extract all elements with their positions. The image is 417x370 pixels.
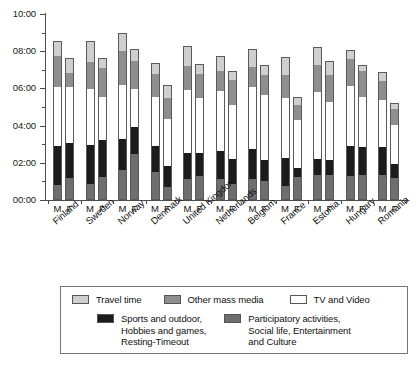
bar-segment-participatory xyxy=(195,176,204,200)
legend-swatch-participatory-activities xyxy=(224,314,241,323)
legend-item-sports-hobbies-resting: Sports and outdoor, Hobbies and games, R… xyxy=(97,313,206,348)
bar-segment-tv xyxy=(151,97,160,145)
bar-segment-other-mass-media xyxy=(358,71,367,98)
bar-segment-other-mass-media xyxy=(390,109,399,125)
x-axis-group-tick xyxy=(341,200,342,204)
bar-segment-travel xyxy=(98,58,107,68)
bar-segment-sports xyxy=(86,145,95,184)
x-axis-group-tick xyxy=(308,200,309,204)
bar-segment-other-mass-media xyxy=(86,62,95,89)
bar-segment-travel xyxy=(293,97,302,104)
bar-segment-tv xyxy=(65,87,74,143)
bar-segment-travel xyxy=(118,33,127,51)
bar-segment-other-mass-media xyxy=(151,74,160,97)
legend-label-travel-time: Travel time xyxy=(96,294,142,306)
bar-romania-m xyxy=(378,72,387,200)
bar-segment-sports xyxy=(293,168,302,177)
bar-segment-tv xyxy=(118,85,127,139)
bar-segment-participatory xyxy=(86,184,95,200)
bar-segment-participatory xyxy=(151,172,160,200)
bar-segment-other-mass-media xyxy=(228,80,237,105)
bar-segment-tv xyxy=(390,125,399,164)
bar-france-m xyxy=(281,57,290,200)
bar-estonia-f xyxy=(325,61,334,200)
legend-item-participatory-activities: Participatory activities, Social life, E… xyxy=(224,313,350,348)
x-axis-group-tick xyxy=(48,200,49,204)
bar-segment-tv xyxy=(293,120,302,168)
bar-segment-tv xyxy=(325,102,334,160)
x-axis-group-tick xyxy=(178,200,179,204)
legend-swatch-tv-and-video xyxy=(290,295,307,304)
bar-segment-sports xyxy=(248,149,257,179)
bar-segment-sports xyxy=(65,143,74,177)
bar-segment-tv xyxy=(248,87,257,149)
bar-segment-other-mass-media xyxy=(325,75,334,102)
bar-segment-sports xyxy=(53,146,62,185)
bar-segment-sports xyxy=(183,153,192,179)
bar-segment-other-mass-media xyxy=(346,59,355,86)
legend-swatch-other-mass-media xyxy=(164,295,181,304)
bar-segment-participatory xyxy=(183,179,192,200)
bar-segment-tv xyxy=(98,97,107,140)
bar-segment-other-mass-media xyxy=(183,66,192,90)
bar-segment-participatory xyxy=(53,185,62,200)
bar-segment-tv xyxy=(378,100,387,148)
bar-segment-sports xyxy=(346,146,355,176)
bar-segment-participatory xyxy=(281,186,290,200)
y-tick-major xyxy=(40,200,46,201)
bar-segment-travel xyxy=(325,61,334,75)
bar-denmark-f xyxy=(163,85,172,200)
bar-segment-sports xyxy=(195,153,204,176)
bar-segment-tv xyxy=(346,86,355,146)
bar-estonia-m xyxy=(313,47,322,200)
bar-segment-sports xyxy=(390,164,399,179)
bar-segment-sports xyxy=(378,147,387,175)
bar-segment-tv xyxy=(163,119,172,166)
bar-segment-participatory xyxy=(313,175,322,200)
bar-segment-travel xyxy=(248,49,257,67)
bar-segment-travel xyxy=(183,46,192,66)
y-axis-tick-label: 08:00 xyxy=(0,46,36,56)
bar-finland-m xyxy=(53,41,62,200)
bar-segment-tv xyxy=(281,98,290,158)
bar-segment-tv xyxy=(86,89,95,144)
bar-segment-participatory xyxy=(118,170,127,200)
bar-sweden-f xyxy=(98,58,107,200)
bar-segment-sports xyxy=(151,146,160,172)
legend-label-participatory-activities: Participatory activities, Social life, E… xyxy=(248,313,350,348)
bar-segment-tv xyxy=(53,87,62,146)
bar-segment-travel xyxy=(86,41,95,62)
bar-norway-f xyxy=(130,49,139,200)
bar-segment-other-mass-media xyxy=(130,61,139,89)
bar-segment-other-mass-media xyxy=(293,105,302,120)
bar-segment-other-mass-media xyxy=(248,67,257,86)
legend-swatch-travel-time xyxy=(72,295,89,304)
bar-romania-f xyxy=(390,103,399,200)
bar-segment-sports xyxy=(281,158,290,186)
bar-france-f xyxy=(293,97,302,200)
bar-finland-f xyxy=(65,58,74,200)
bar-segment-participatory xyxy=(346,176,355,200)
bar-segment-tv xyxy=(228,105,237,160)
bar-segment-other-mass-media xyxy=(53,56,62,87)
x-axis-group-tick xyxy=(243,200,244,204)
y-axis-tick-label: 02:00 xyxy=(0,158,36,168)
bar-segment-travel xyxy=(65,58,74,73)
bar-segment-other-mass-media xyxy=(281,75,290,98)
bar-segment-participatory xyxy=(378,175,387,200)
x-axis-group-tick xyxy=(81,200,82,204)
bar-segment-participatory xyxy=(390,178,399,200)
y-axis-tick-label: 10:00 xyxy=(0,9,36,19)
bar-segment-other-mass-media xyxy=(118,51,127,85)
bar-segment-sports xyxy=(260,160,269,181)
x-axis-group-tick xyxy=(373,200,374,204)
bar-segment-sports xyxy=(325,160,334,175)
x-axis-group-tick xyxy=(113,200,114,204)
bar-segment-tv xyxy=(216,91,225,152)
bar-norway-m xyxy=(118,33,127,200)
bar-sweden-m xyxy=(86,41,95,200)
bar-segment-other-mass-media xyxy=(378,81,387,100)
legend-swatch-sports-hobbies-resting xyxy=(97,314,114,323)
bar-segment-sports xyxy=(358,147,367,175)
bar-segment-other-mass-media xyxy=(65,73,74,88)
